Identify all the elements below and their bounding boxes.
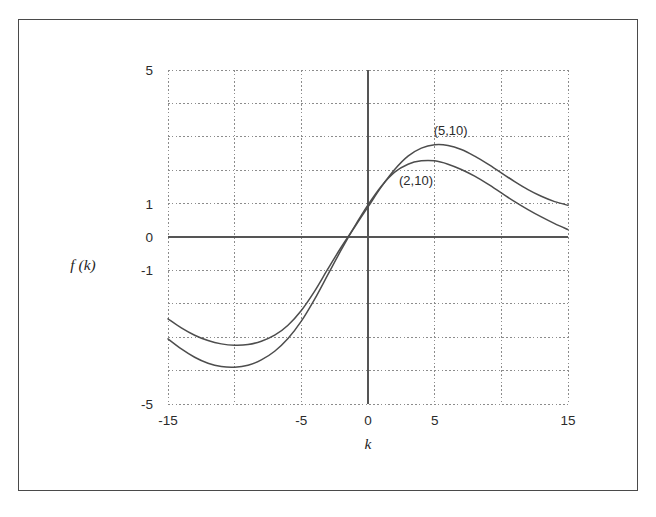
x-axis-title: k [365,435,373,452]
x-tick-label: 5 [431,413,439,428]
y-tick-label: -1 [141,263,153,278]
y-axis-title: f (k) [70,256,95,274]
y-tick-label: 0 [145,230,153,245]
y-tick-label: 5 [145,63,153,78]
zero-axes [168,70,568,404]
y-tick-label: -5 [141,397,153,412]
chart-canvas: -15-50515 510-1-5 (5,10)(2,10) k f (k) [0,0,656,517]
x-tick-label: 0 [364,413,372,428]
curve-annotation-510: (5,10) [434,123,468,138]
x-tick-label: -15 [158,413,178,428]
y-axis-tick-labels: 510-1-5 [141,63,153,412]
curve-annotation-210: (2,10) [399,173,433,188]
y-tick-label: 1 [145,197,153,212]
x-tick-label: -5 [295,413,307,428]
x-tick-label: 15 [560,413,575,428]
x-axis-tick-labels: -15-50515 [158,413,575,428]
